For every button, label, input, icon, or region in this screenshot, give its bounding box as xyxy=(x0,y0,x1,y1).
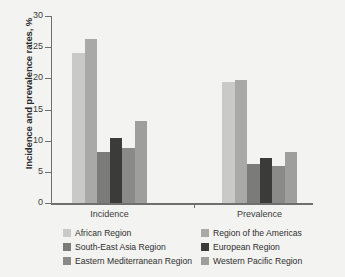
bar xyxy=(222,82,235,203)
bar-group xyxy=(222,16,297,203)
y-axis-tick-label: 25 xyxy=(0,42,43,51)
x-axis-category-label: Prevalence xyxy=(215,209,305,219)
bar xyxy=(97,152,110,203)
legend-swatch xyxy=(63,229,71,237)
bar xyxy=(110,138,123,203)
legend-item[interactable]: South-East Asia Region xyxy=(63,241,166,253)
x-axis-divider-tick xyxy=(194,203,195,208)
legend-swatch xyxy=(201,243,209,251)
legend-label: European Region xyxy=(213,243,280,252)
y-axis-tick-label: 5 xyxy=(0,167,43,176)
legend-item[interactable]: Eastern Mediterranean Region xyxy=(63,255,192,267)
legend-swatch xyxy=(201,257,209,265)
legend-label: South-East Asia Region xyxy=(75,243,166,252)
chart-figure: 051015202530 Incidence and prevalence ra… xyxy=(0,0,345,277)
legend-swatch xyxy=(201,229,209,237)
bar xyxy=(285,152,298,203)
plot-area xyxy=(51,16,313,203)
bar xyxy=(272,166,285,203)
bar xyxy=(85,39,98,203)
x-axis-category-label: Incidence xyxy=(65,209,155,219)
legend-label: Eastern Mediterranean Region xyxy=(75,257,192,266)
legend-item[interactable]: European Region xyxy=(201,241,280,253)
legend-item[interactable]: Western Pacific Region xyxy=(201,255,302,267)
chart-legend: African RegionRegion of the AmericasSout… xyxy=(63,227,333,271)
legend-item[interactable]: African Region xyxy=(63,227,131,239)
bar-group xyxy=(72,16,147,203)
x-axis-line xyxy=(51,203,313,205)
bar xyxy=(260,158,273,204)
y-axis-tick xyxy=(45,203,51,204)
legend-label: Western Pacific Region xyxy=(213,257,302,266)
bar xyxy=(122,148,135,203)
bar xyxy=(72,53,85,203)
y-axis-tick-label: 10 xyxy=(0,136,43,145)
legend-label: Region of the Americas xyxy=(213,229,302,238)
y-axis-tick-label: 20 xyxy=(0,73,43,82)
legend-swatch xyxy=(63,243,71,251)
y-axis-tick-label-text: 0 xyxy=(1,198,43,207)
legend-swatch xyxy=(63,257,71,265)
y-axis-title: Incidence and prevalence rates, % xyxy=(23,4,34,184)
legend-label: African Region xyxy=(75,229,131,238)
y-axis-tick-label: 0 xyxy=(0,198,43,207)
bar xyxy=(135,121,148,203)
bar xyxy=(247,164,260,203)
y-axis-tick-label: 30 xyxy=(0,11,43,20)
y-axis-tick-label: 15 xyxy=(0,105,43,114)
legend-item[interactable]: Region of the Americas xyxy=(201,227,302,239)
bar xyxy=(235,80,248,203)
